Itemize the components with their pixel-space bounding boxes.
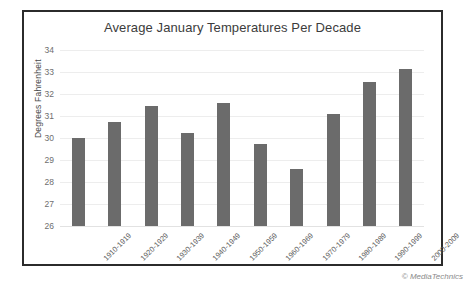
bar: [217, 103, 230, 226]
x-axis-tick-label: 1960-1969: [284, 231, 316, 263]
y-axis-tick-label: 32: [45, 89, 54, 99]
x-axis-tick-label: 1930-1939: [175, 231, 207, 263]
bar: [108, 122, 121, 227]
x-axis-tick-label: 1970-1979: [320, 231, 352, 263]
y-axis-tick-label: 28: [45, 177, 54, 187]
gridline: [60, 226, 424, 227]
y-axis-label: Degrees Fahrenheit: [33, 59, 43, 138]
x-axis-tick-label: 1980-1989: [357, 231, 389, 263]
chart-figure: Average January Temperatures Per Decade …: [22, 10, 443, 266]
gridline: [60, 72, 424, 73]
bar: [363, 82, 376, 226]
x-axis-tick-label: 1940-1949: [211, 231, 243, 263]
y-axis-tick-label: 33: [45, 67, 54, 77]
copyright-credit: © MediaTechnics: [402, 272, 463, 281]
y-axis-tick-label: 27: [45, 199, 54, 209]
x-axis-tick-label: 1990-1999: [393, 231, 425, 263]
y-axis-tick-label: 34: [45, 45, 54, 55]
plot-area: 343332313029282726 1910-19191920-1929193…: [60, 50, 424, 226]
bar: [399, 69, 412, 226]
chart-title: Average January Temperatures Per Decade: [24, 20, 441, 35]
bar: [327, 114, 340, 226]
x-axis-tick-label: 1950-1959: [247, 231, 279, 263]
bar: [181, 133, 194, 227]
x-axis-tick-label: 1910-1919: [102, 231, 134, 263]
y-axis-tick-label: 30: [45, 133, 54, 143]
bar: [72, 138, 85, 226]
gridline: [60, 50, 424, 51]
x-axis-tick-label: 2000-2009: [429, 231, 461, 263]
bar: [254, 144, 267, 227]
y-axis-tick-label: 31: [45, 111, 54, 121]
x-axis-tick-label: 1920-1929: [138, 231, 170, 263]
y-axis-tick-label: 26: [45, 221, 54, 231]
bar: [145, 106, 158, 226]
bar: [290, 169, 303, 226]
y-axis-tick-label: 29: [45, 155, 54, 165]
